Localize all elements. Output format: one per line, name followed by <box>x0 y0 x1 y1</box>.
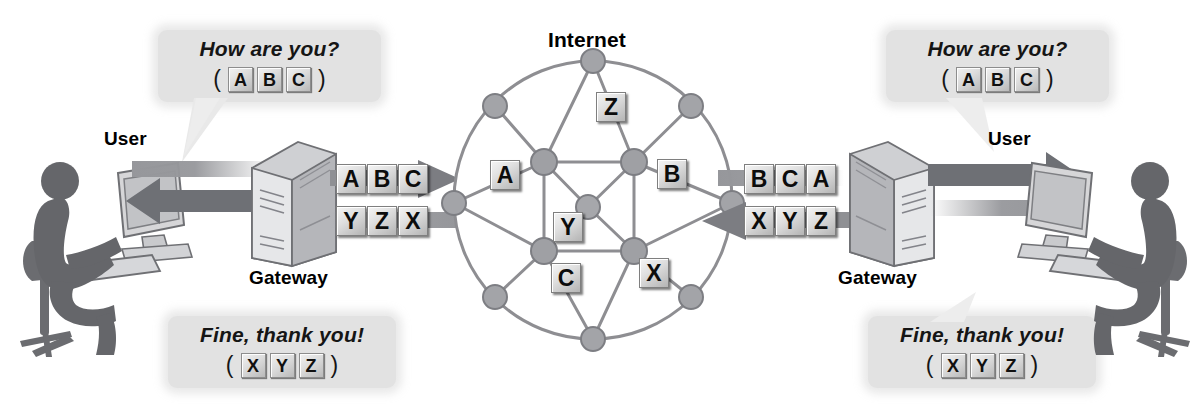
packet-tile: B <box>657 159 687 189</box>
close-paren: ) <box>1042 68 1058 91</box>
packet-tile: B <box>744 164 774 194</box>
bubble-top-right-packets: ( A B C ) <box>900 67 1095 92</box>
network-diagram: User How are you? ( A B C ) Fine, thank … <box>0 0 1204 419</box>
open-paren: ( <box>222 354 238 377</box>
cloud-packet-z: Z <box>596 92 626 122</box>
packet-tile: X <box>241 353 266 378</box>
packet-tile: Y <box>970 353 995 378</box>
packet-tile: Z <box>806 206 836 236</box>
packet-tile: X <box>941 353 966 378</box>
packet-tile: C <box>1014 67 1039 92</box>
bubble-top-left-text: How are you? <box>172 38 367 60</box>
packet-tile: Y <box>270 353 295 378</box>
stream-right-outbound: X Y Z <box>744 206 836 236</box>
packet-tile: C <box>286 67 311 92</box>
packet-tile: Z <box>367 206 397 236</box>
cloud-packet-b: B <box>657 159 687 189</box>
packet-tile: C <box>775 164 805 194</box>
user-left-label: User <box>104 128 147 150</box>
packet-tile: A <box>956 67 981 92</box>
bubble-top-left-packets: ( A B C ) <box>172 67 367 92</box>
bubble-bottom-left-packets: ( X Y Z ) <box>182 353 382 378</box>
packet-tile: Y <box>553 212 583 242</box>
close-paren: ) <box>314 68 330 91</box>
close-paren: ) <box>327 354 343 377</box>
packet-tile: Z <box>299 353 324 378</box>
packet-tile: A <box>806 164 836 194</box>
packet-tile: B <box>985 67 1010 92</box>
packet-tile: X <box>639 258 669 288</box>
cloud-packet-y: Y <box>553 212 583 242</box>
cloud-packet-x: X <box>639 258 669 288</box>
packet-tile: A <box>490 160 520 190</box>
gateway-right-label: Gateway <box>838 267 917 289</box>
bubble-bottom-left: Fine, thank you! ( X Y Z ) <box>168 316 396 388</box>
user-right-label: User <box>988 128 1031 150</box>
open-paren: ( <box>937 68 953 91</box>
packet-tile: Y <box>336 206 366 236</box>
gateway-left-server <box>250 140 340 268</box>
bubble-top-left: How are you? ( A B C ) <box>158 30 381 102</box>
cloud-packet-a: A <box>490 160 520 190</box>
packet-tile: X <box>744 206 774 236</box>
packet-tile: A <box>228 67 253 92</box>
packet-tile: A <box>336 164 366 194</box>
bubble-bottom-right-tail <box>900 292 976 326</box>
packet-tile: C <box>551 263 581 293</box>
gateway-left-label: Gateway <box>249 267 328 289</box>
bubble-bottom-left-text: Fine, thank you! <box>182 324 382 346</box>
packet-tile: Z <box>596 92 626 122</box>
internet-cloud <box>448 55 738 345</box>
bubble-top-right: How are you? ( A B C ) <box>886 30 1109 102</box>
cloud-packet-c: C <box>551 263 581 293</box>
packet-tile: Y <box>775 206 805 236</box>
user-right-illustration <box>1000 145 1192 360</box>
packet-tile: X <box>398 206 428 236</box>
bubble-top-right-text: How are you? <box>900 38 1095 60</box>
packet-tile: B <box>367 164 397 194</box>
stream-left-outbound: A B C <box>336 164 428 194</box>
open-paren: ( <box>922 354 938 377</box>
stream-left-inbound: Y Z X <box>336 206 428 236</box>
packet-tile: C <box>398 164 428 194</box>
bubble-top-left-tail <box>176 98 246 164</box>
internet-label: Internet <box>548 28 626 52</box>
stream-right-inbound: B C A <box>744 164 836 194</box>
gateway-right-server <box>844 140 936 268</box>
open-paren: ( <box>209 68 225 91</box>
arrow-right-out-head <box>702 202 746 240</box>
packet-tile: B <box>257 67 282 92</box>
